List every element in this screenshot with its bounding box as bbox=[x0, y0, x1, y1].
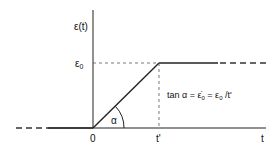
strain-ramp-diagram: ε(t) ε0 α 0 t' t tan α = ε̇0 = ε0 /t' bbox=[0, 0, 280, 151]
y-axis-label: ε(t) bbox=[74, 21, 88, 32]
epsilon0-label: ε0 bbox=[75, 58, 83, 70]
angle-arc bbox=[116, 107, 124, 129]
x-axis-label: t bbox=[261, 133, 264, 144]
slope-equation: tan α = ε̇0 = ε0 /t' bbox=[167, 90, 232, 101]
origin-label: 0 bbox=[90, 133, 96, 144]
ramp-line bbox=[93, 63, 159, 128]
angle-label: α bbox=[111, 115, 117, 126]
t-prime-label: t' bbox=[156, 133, 161, 144]
